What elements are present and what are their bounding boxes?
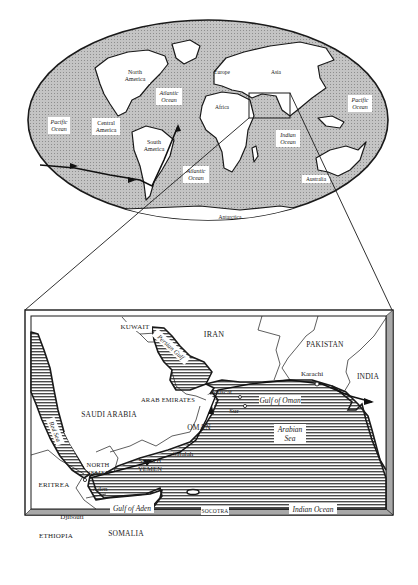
label-socotra: SOCOTRA — [201, 508, 228, 514]
label-gulf-of-aden: Gulf of Aden — [113, 504, 151, 513]
label-europe: Europe — [214, 69, 230, 75]
label-central-america-1: Central — [97, 120, 115, 126]
label-pacific-east-1: Pacific — [351, 97, 369, 103]
label-atlantic-north-1: Atlantic — [159, 90, 179, 96]
label-salalah: Salalah — [173, 450, 194, 458]
label-karachi: Karachi — [301, 370, 323, 378]
label-somalia: SOMALIA — [108, 529, 144, 538]
label-djibouti: Djibouti — [60, 513, 83, 521]
label-atlantic-south-1: Atlantic — [186, 168, 206, 174]
label-pacific-west-1: Pacific — [50, 119, 68, 125]
label-north-yemen-2: YEMEN — [86, 469, 110, 476]
city-marker-muscat — [239, 396, 242, 399]
label-iran: IRAN — [204, 330, 224, 339]
label-indian-ocean-2: Ocean — [280, 139, 296, 145]
inset-frame-right-bevel — [386, 310, 393, 515]
label-pacific-west-2: Ocean — [51, 126, 67, 132]
label-arab-emirates: ARAB EMIRATES — [141, 396, 195, 403]
label-north-america-2: America — [125, 76, 146, 82]
label-saudi-arabia: SAUDI ARABIA — [81, 410, 137, 419]
label-indian-ocean: Indian Ocean — [291, 505, 333, 514]
inset-map: KUWAIT IRAN PAKISTAN INDIA SAUDI ARABIA … — [25, 310, 393, 540]
label-asia: Asia — [271, 69, 282, 75]
world-map: North America Pacific Ocean Central Amer… — [28, 20, 400, 230]
label-arabian-sea-1: Arabian — [277, 425, 303, 434]
label-pakistan: PAKISTAN — [306, 340, 344, 349]
label-eritrea: ERITREA — [39, 481, 70, 489]
map-figure: North America Pacific Ocean Central Amer… — [0, 0, 418, 585]
label-south-yemen-2: YEMEN — [138, 465, 162, 472]
label-indian-ocean-1: Indian — [279, 132, 296, 138]
label-atlantic-north-2: Ocean — [161, 97, 177, 103]
label-south-america-1: South — [147, 139, 161, 145]
island-socotra — [187, 490, 199, 495]
label-north-america-1: North — [128, 69, 142, 75]
label-north-yemen-1: NORTH — [87, 461, 110, 468]
label-sur: Sur — [229, 407, 239, 415]
city-marker-djibouti — [83, 478, 86, 481]
label-antarctica: Antarctica — [219, 214, 242, 220]
label-pacific-east-2: Ocean — [352, 104, 368, 110]
label-south-yemen-1: SOUTH — [139, 457, 162, 464]
label-gulf-of-oman: Gulf of Oman — [259, 396, 301, 405]
label-india: INDIA — [357, 372, 380, 381]
label-kuwait: KUWAIT — [121, 323, 150, 331]
label-oman: OMAN — [187, 423, 211, 432]
label-aden: Aden — [92, 485, 108, 493]
label-ethiopia: ETHIOPIA — [39, 532, 73, 540]
city-marker-karachi — [315, 382, 319, 386]
label-south-america-2: America — [144, 146, 165, 152]
label-central-america-2: America — [96, 127, 117, 133]
label-arabian-sea-2: Sea — [285, 434, 296, 443]
label-muscat: Muscat — [211, 388, 232, 396]
label-atlantic-south-2: Ocean — [188, 175, 204, 181]
label-africa: Africa — [215, 104, 230, 110]
label-australia: Australia — [306, 176, 327, 182]
city-marker-sur — [243, 404, 246, 407]
